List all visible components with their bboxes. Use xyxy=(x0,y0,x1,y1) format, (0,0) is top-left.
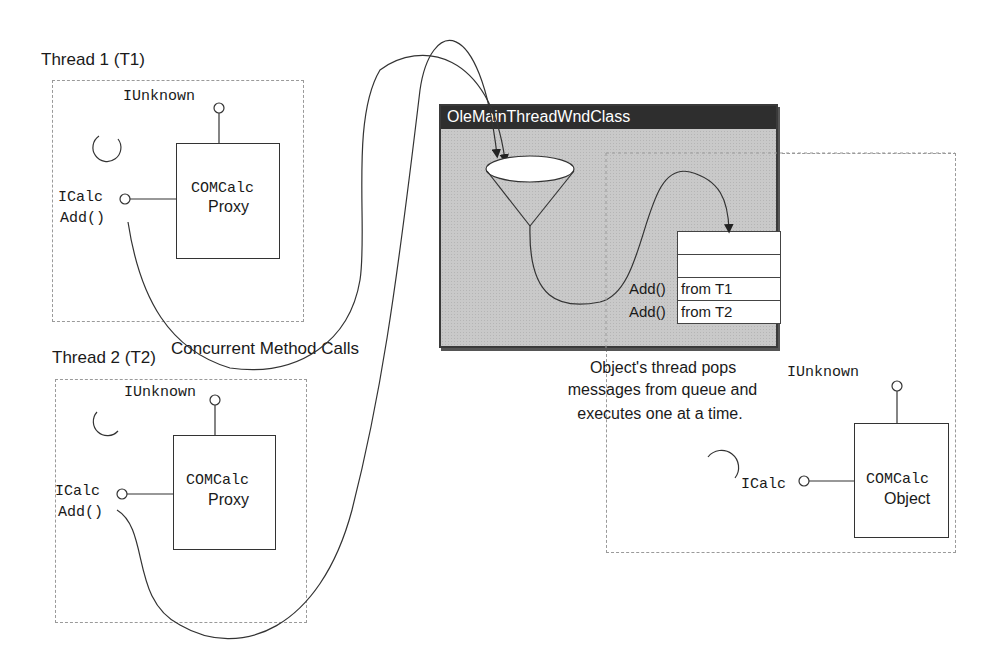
message-queue: from T1 from T2 xyxy=(677,231,781,324)
queue-row-text: from T2 xyxy=(681,303,732,320)
object-iunknown-label: IUnknown xyxy=(787,364,859,381)
thread1-icalc-label: ICalc xyxy=(58,189,103,206)
object-caption-line3: executes one at a time. xyxy=(545,405,775,423)
queue-row: from T1 xyxy=(678,278,780,301)
thread2-component-type: Proxy xyxy=(208,491,249,509)
thread1-component-type: Proxy xyxy=(208,198,249,216)
thread1-title: Thread 1 (T1) xyxy=(41,50,145,70)
thread2-component-name: COMCalc xyxy=(186,472,249,489)
object-caption-line1: Object's thread pops xyxy=(563,359,763,377)
object-component-name: COMCalc xyxy=(866,471,929,488)
queue-row xyxy=(678,255,780,278)
thread2-method-label: Add() xyxy=(58,504,103,521)
thread2-icalc-label: ICalc xyxy=(55,483,100,500)
window-titlebar: OleMainThreadWndClass xyxy=(441,106,776,129)
concurrent-calls-label: Concurrent Method Calls xyxy=(171,339,359,359)
window-title: OleMainThreadWndClass xyxy=(447,108,630,126)
thread1-component-name: COMCalc xyxy=(191,180,254,197)
queue-row xyxy=(678,232,780,255)
queue-row-text: from T1 xyxy=(681,280,732,297)
thread1-iunknown-label: IUnknown xyxy=(123,88,195,105)
thread1-method-label: Add() xyxy=(60,210,105,227)
object-caption-line2: messages from queue and xyxy=(555,381,770,399)
queue-row-prefix-t1: Add() xyxy=(629,280,666,297)
object-icalc-label: ICalc xyxy=(741,476,786,493)
queue-row-prefix-t2: Add() xyxy=(629,303,666,320)
thread2-iunknown-label: IUnknown xyxy=(124,384,196,401)
queue-row: from T2 xyxy=(678,301,780,324)
thread2-title: Thread 2 (T2) xyxy=(52,348,156,368)
object-component-type: Object xyxy=(884,490,930,508)
